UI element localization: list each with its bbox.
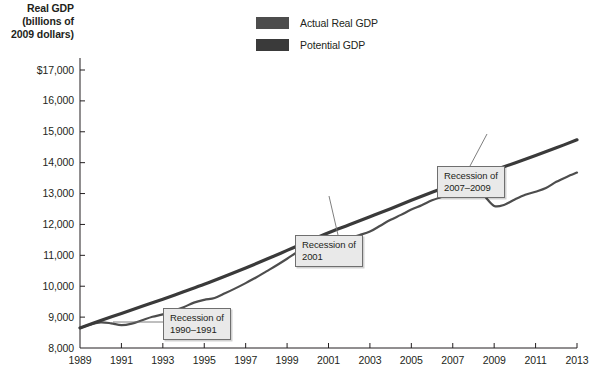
x-axis-tick-label: 2013	[557, 355, 593, 366]
y-axis-tick-label: 12,000	[8, 219, 74, 230]
x-axis-tick-label: 2003	[350, 355, 390, 366]
x-axis-tick-label: 1995	[184, 355, 224, 366]
annotation-text-line: Recession of	[170, 312, 224, 324]
x-axis-tick-label: 1997	[226, 355, 266, 366]
annotation-text-line: 2001	[302, 251, 356, 263]
annotation-recession-1990-1991: Recession of1990–1991	[163, 308, 231, 340]
x-axis-tick-label: 2001	[309, 355, 349, 366]
gdp-chart: Real GDP (billions of 2009 dollars) Actu…	[0, 0, 593, 376]
annotation-text-line: 1990–1991	[170, 324, 224, 336]
y-axis-tick-label: 8,000	[8, 343, 74, 354]
annotation-recession-2001: Recession of2001	[295, 235, 363, 267]
x-axis-tick-label: 2009	[474, 355, 514, 366]
annotation-text-line: Recession of	[302, 239, 356, 251]
y-axis-tick-label: 16,000	[8, 95, 74, 106]
annotation-recession-2007-2009: Recession of2007–2009	[437, 166, 505, 198]
x-axis-tick-label: 1989	[60, 355, 100, 366]
annotation-text-line: 2007–2009	[444, 182, 498, 194]
x-axis-tick-label: 1999	[267, 355, 307, 366]
x-axis-tick-label: 1991	[101, 355, 141, 366]
x-axis-tick-label: 2007	[433, 355, 473, 366]
y-axis-tick-label: $17,000	[8, 65, 74, 76]
x-axis-tick-label: 2011	[516, 355, 556, 366]
y-axis-tick-label: 14,000	[8, 157, 74, 168]
y-axis-tick-label: 11,000	[8, 250, 74, 261]
annotation-text-line: Recession of	[444, 170, 498, 182]
y-axis-tick-label: 13,000	[8, 188, 74, 199]
x-axis-tick-label: 1993	[143, 355, 183, 366]
x-axis-tick-label: 2005	[391, 355, 431, 366]
annotation-leader-recession-2007-2009	[470, 134, 487, 166]
y-axis-tick-label: 10,000	[8, 281, 74, 292]
y-axis-tick-label: 9,000	[8, 312, 74, 323]
y-axis-tick-label: 15,000	[8, 126, 74, 137]
